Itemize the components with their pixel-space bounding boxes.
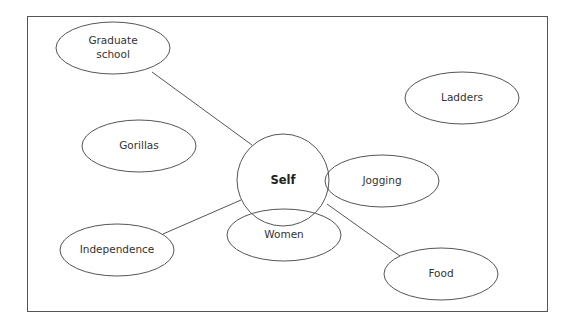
node-women: Women [227,209,341,261]
self-label: Self [270,173,296,187]
node-independence: Independence [60,224,174,276]
node-ladders: Ladders [405,72,519,124]
node-jogging: Jogging [325,155,439,207]
node-food: Food [384,248,498,300]
node-gorillas: Gorillas [82,120,196,172]
independence-label: Independence [80,243,155,255]
edge-food-to-self [327,204,400,256]
gorillas-label: Gorillas [119,139,159,151]
edge-independence-to-self [163,200,241,234]
graduate-school-label: school [96,48,130,60]
jogging-label: Jogging [361,174,401,186]
center-node-self: Self [237,134,329,226]
concept-map-canvas: GraduateschoolGorillasLaddersJoggingWome… [0,0,578,330]
women-label: Women [264,228,304,240]
edge-graduate-school-to-self [152,72,252,145]
graduate-school-label: Graduate [88,34,137,46]
food-label: Food [428,267,453,279]
node-graduate-school: Graduateschool [56,22,170,74]
ladders-label: Ladders [441,91,483,103]
nodes: GraduateschoolGorillasLaddersJoggingWome… [56,22,519,300]
